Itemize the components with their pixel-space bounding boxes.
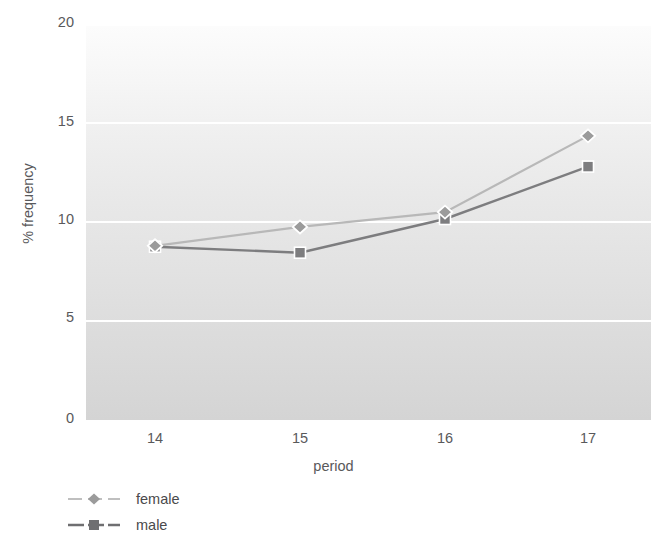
marker-male-17 bbox=[583, 161, 594, 172]
y-tick-10: 10 bbox=[30, 212, 74, 227]
data-layer bbox=[86, 26, 651, 420]
series-markers-female bbox=[148, 129, 595, 252]
square-marker-icon bbox=[89, 520, 99, 530]
marker-female-17 bbox=[581, 129, 595, 142]
legend-label-female: female bbox=[136, 492, 180, 507]
legend-entry-male[interactable]: male bbox=[66, 512, 366, 538]
y-tick-15: 15 bbox=[30, 114, 74, 129]
x-tick-16: 16 bbox=[415, 431, 475, 446]
series-line-male bbox=[155, 167, 588, 253]
x-axis-ticks: 14 15 16 17 bbox=[0, 431, 667, 451]
x-tick-15: 15 bbox=[270, 431, 330, 446]
x-tick-17: 17 bbox=[558, 431, 618, 446]
marker-female-15 bbox=[293, 220, 307, 233]
series-markers-male bbox=[150, 161, 594, 258]
x-tick-14: 14 bbox=[125, 431, 185, 446]
legend-key-female bbox=[66, 489, 122, 509]
legend-key-male bbox=[66, 515, 122, 535]
line-chart-figure: 20 15 10 5 0 14 15 16 17 % frequency per… bbox=[0, 0, 667, 545]
chart-legend: female male bbox=[66, 486, 366, 538]
y-tick-5: 5 bbox=[30, 310, 74, 325]
y-tick-0: 0 bbox=[30, 411, 74, 426]
y-tick-20: 20 bbox=[30, 15, 74, 30]
x-axis-title: period bbox=[0, 459, 667, 474]
legend-entry-female[interactable]: female bbox=[66, 486, 366, 512]
marker-male-15 bbox=[295, 247, 306, 258]
legend-label-male: male bbox=[136, 518, 167, 533]
diamond-marker-icon bbox=[88, 494, 100, 505]
plot-area bbox=[86, 26, 651, 420]
y-axis-title: % frequency bbox=[21, 124, 36, 284]
